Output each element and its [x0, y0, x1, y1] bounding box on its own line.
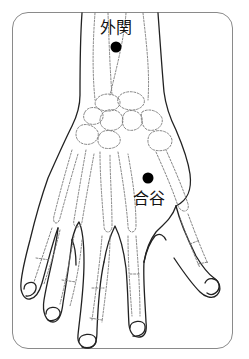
waiguan-label: 外関	[100, 19, 132, 37]
hegu-point	[143, 173, 154, 184]
hand-diagram	[0, 0, 249, 359]
hand-outline	[21, 13, 220, 348]
bone-contours	[34, 13, 208, 322]
hegu-label: 合谷	[133, 190, 165, 208]
waiguan-point	[111, 42, 122, 53]
